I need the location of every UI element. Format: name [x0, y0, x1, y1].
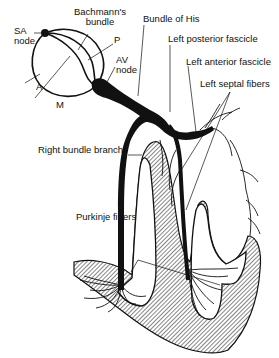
label-left-posterior-fascicle: Left posterior fascicle [168, 34, 258, 44]
label-bachmanns-bundle: Bachmann's bundle [74, 7, 126, 27]
conduction-system-diagram [0, 0, 279, 358]
label-left-septal-fibers: Left septal fibers [200, 79, 270, 89]
label-bundle-of-his: Bundle of His [143, 14, 200, 24]
label-sa-node-line2: node [14, 36, 35, 46]
label-sa-node: SA node [14, 26, 35, 46]
label-p: P [114, 35, 120, 45]
label-a: A [36, 82, 42, 92]
anterior-fascicle-fibers [200, 104, 260, 236]
label-bachmann-line2: bundle [74, 17, 126, 27]
label-right-bundle-branch: Right bundle branch [38, 145, 123, 155]
label-m: M [56, 100, 64, 110]
label-left-anterior-fascicle: Left anterior fascicle [186, 57, 271, 67]
ventricular-myocardium [74, 142, 261, 353]
sa-node [41, 29, 49, 37]
label-av-node: AV node [116, 55, 137, 75]
label-av-node-line2: node [116, 65, 137, 75]
label-purkinje-fibers: Purkinje fibers [76, 212, 136, 222]
